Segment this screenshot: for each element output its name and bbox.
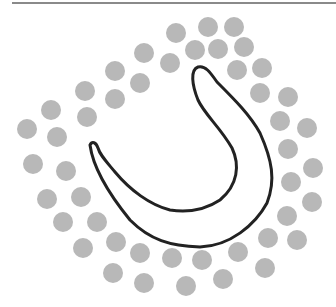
inner-dot (47, 127, 67, 147)
inner-dot (106, 232, 126, 252)
outer-dot (252, 58, 272, 78)
outer-dot (53, 212, 73, 232)
inner-dot (250, 83, 270, 103)
outer-dot (41, 100, 61, 120)
outer-dot (255, 258, 275, 278)
outer-dot (278, 87, 298, 107)
inner-dot (258, 228, 278, 248)
outer-dot (75, 81, 95, 101)
outer-dot (166, 23, 186, 43)
outer-dot (224, 17, 244, 37)
dot-rings (17, 17, 323, 296)
inner-dot (130, 73, 150, 93)
inner-dot (105, 89, 125, 109)
outer-dot (198, 17, 218, 37)
outer-dot (297, 118, 317, 138)
outer-dot (176, 276, 196, 296)
inner-dot (162, 248, 182, 268)
outer-dot (105, 61, 125, 81)
outer-dot (287, 230, 307, 250)
outer-dot (73, 238, 93, 258)
inner-dot (56, 161, 76, 181)
inner-dot (160, 53, 180, 73)
outer-dot (17, 119, 37, 139)
inner-dot (71, 187, 91, 207)
outer-dot (37, 189, 57, 209)
inner-dot (208, 39, 228, 59)
outer-dot (213, 269, 233, 289)
outer-dot (234, 37, 254, 57)
inner-dot (228, 242, 248, 262)
inner-dot (130, 243, 150, 263)
inner-dot (77, 107, 97, 127)
inner-dot (270, 111, 290, 131)
inner-dot (281, 172, 301, 192)
inner-dot (87, 212, 107, 232)
outer-dot (303, 158, 323, 178)
figure (0, 0, 336, 307)
outer-dot (23, 154, 43, 174)
inner-dot (277, 206, 297, 226)
inner-dot (227, 60, 247, 80)
outer-dot (103, 263, 123, 283)
inner-dot (278, 139, 298, 159)
outer-dot (302, 192, 322, 212)
outer-dot (134, 43, 154, 63)
inner-dot (192, 250, 212, 270)
outer-dot (134, 273, 154, 293)
inner-dot (185, 40, 205, 60)
